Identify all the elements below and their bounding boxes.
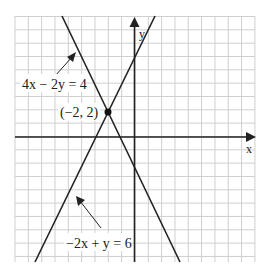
arrow-line1 — [55, 57, 72, 76]
arrow-line2 — [80, 201, 101, 228]
graph: 4x − 2y = 4 (−2, 2) −2x + y = 6 x y — [0, 0, 269, 280]
label-point: (−2, 2) — [60, 105, 99, 121]
intersection-point — [105, 109, 112, 116]
label-line2: −2x + y = 6 — [66, 236, 132, 251]
y-axis-arrow-icon — [130, 17, 140, 27]
label-line1: 4x − 2y = 4 — [22, 77, 87, 92]
arrow-line2-head-icon — [76, 196, 85, 206]
line-4x-2y-4 — [62, 16, 180, 262]
y-axis-label: y — [139, 27, 145, 41]
x-axis-label: x — [246, 142, 252, 156]
